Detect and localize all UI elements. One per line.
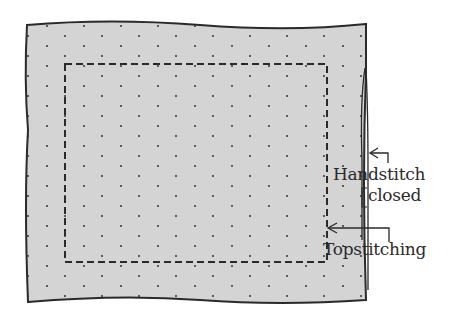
- label-topstitching: Topstitching: [322, 240, 427, 258]
- label-closed: closed: [367, 186, 422, 204]
- diagram-canvas: [0, 0, 451, 322]
- label-handstitch: Handstitch: [332, 165, 426, 183]
